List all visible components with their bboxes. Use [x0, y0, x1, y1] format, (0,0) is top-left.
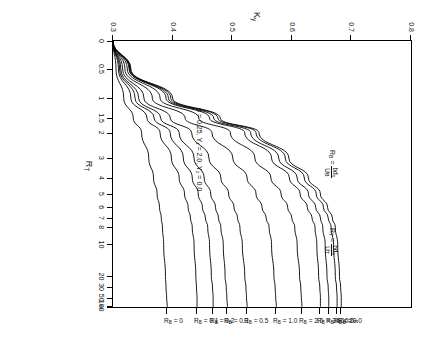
- y-tick-4: [350, 35, 351, 41]
- curve-label-value-10: 0: [179, 317, 183, 324]
- curve-layer: [113, 41, 411, 307]
- y-tick-3: [291, 35, 292, 41]
- x-axis-title: RT: [83, 161, 94, 171]
- x-tick-11: [107, 244, 113, 245]
- curve-label-value-6: 0.5: [259, 317, 268, 324]
- curve-asymptote-tick-4: [301, 307, 302, 314]
- x-tick-8: [107, 207, 113, 208]
- curve-label-symbol-5: RB: [273, 317, 281, 324]
- x-tick-5: [107, 158, 113, 159]
- curve-label-eq-9: =: [204, 317, 208, 324]
- curve-asymptote-tick-5: [275, 307, 276, 314]
- curve-asymptote-tick-7: [226, 307, 227, 314]
- x-tick-4: [107, 133, 113, 134]
- curve-asymptote-tick-8: [212, 307, 213, 314]
- x-tick-label-9: 7: [97, 216, 105, 220]
- rt-symbol: RT: [329, 228, 336, 236]
- x-tick-label-3: 1.5: [97, 113, 105, 123]
- x-tick-label-5: 3: [97, 156, 105, 160]
- x-tick-label-7: 5: [97, 192, 105, 196]
- curve-label-value-2: 10.0: [341, 317, 354, 324]
- x-tick-13: [107, 287, 113, 288]
- curve-label-value-3: 3.0: [333, 317, 342, 324]
- y-tick-label-1: 0.4: [169, 10, 177, 32]
- curve-label-eq-5: =: [283, 317, 287, 324]
- curve-asymptote-tick-0: [340, 307, 341, 314]
- curve-0: [113, 41, 341, 307]
- y-axis-title-sub: y: [251, 18, 258, 21]
- curve-label-symbol-10: RB: [164, 317, 172, 324]
- curve-label-4: RB = 2.0: [299, 317, 323, 326]
- curve-label-eq-10: =: [174, 317, 178, 324]
- rb-denominator: Uʙ: [324, 166, 331, 178]
- rt-denominator: Uᴛ: [324, 244, 331, 256]
- y-tick-label-0: 0.3: [109, 10, 117, 32]
- x-tick-label-13: 30: [97, 283, 105, 291]
- annotation-rb-definition: RB = bd₀ Uʙ: [324, 150, 339, 178]
- curve-9: [113, 41, 197, 307]
- curve-asymptote-tick-6: [246, 307, 247, 314]
- curve-label-symbol-4: RB: [299, 317, 307, 324]
- rb-symbol: RB: [329, 150, 336, 158]
- rb-fraction: bd₀ Uʙ: [324, 166, 339, 178]
- y-tick-1: [172, 35, 173, 41]
- x-axis-title-sub: T: [83, 167, 90, 171]
- x-tick-6: [107, 178, 113, 179]
- x-tick-label-6: 4: [97, 176, 105, 180]
- x-tick-1: [107, 69, 113, 70]
- y-axis-title: Ky: [251, 12, 262, 21]
- y-tick-label-5: 0.8: [407, 10, 415, 32]
- x-tick-label-4: 2: [97, 131, 105, 135]
- curve-label-symbol-9: RB: [194, 317, 202, 324]
- x-tick-2: [107, 98, 113, 99]
- y-tick-2: [231, 35, 232, 41]
- x-tick-7: [107, 194, 113, 195]
- x-tick-label-10: 8: [97, 225, 105, 229]
- chart-figure: 00.511.5234567810203050100∞ 0.30.40.50.6…: [0, 0, 434, 352]
- x-tick-9: [107, 218, 113, 219]
- curve-asymptote-tick-3: [319, 307, 320, 314]
- y-tick-5: [410, 35, 411, 41]
- curve-label-value-4: 2.0: [314, 317, 323, 324]
- x-tick-12: [107, 276, 113, 277]
- curve-label-eq-4: =: [309, 317, 313, 324]
- x-tick-14: [107, 298, 113, 299]
- rt-equals: =: [329, 238, 336, 242]
- rotated-figure-canvas: 00.511.5234567810203050100∞ 0.30.40.50.6…: [0, 0, 434, 352]
- curve-asymptote-tick-1: [336, 307, 337, 314]
- curve-label-10: RB = 0: [164, 317, 183, 326]
- y-tick-0: [112, 35, 113, 41]
- y-tick-label-2: 0.5: [228, 10, 236, 32]
- x-tick-label-16: ∞: [97, 305, 105, 310]
- x-tick-label-0: 0: [97, 39, 105, 43]
- x-tick-16: [107, 307, 113, 308]
- curve-label-9: RB = 0.1: [194, 317, 218, 326]
- curve-label-value-5: 1.0: [289, 317, 298, 324]
- x-tick-label-2: 1: [97, 96, 105, 100]
- curve-label-eq-7: =: [234, 317, 238, 324]
- curve-label-value-8: 0.2: [225, 317, 234, 324]
- annotation-rt-definition: RT = bd₀ Uᴛ: [324, 228, 339, 256]
- rb-numerator: bd₀: [331, 166, 339, 178]
- plot-frame: [112, 40, 412, 308]
- curve-label-eq-3: =: [327, 317, 331, 324]
- x-tick-label-1: 0.5: [97, 64, 105, 74]
- curve-asymptote-tick-9: [196, 307, 197, 314]
- y-tick-label-3: 0.6: [288, 10, 296, 32]
- x-tick-label-8: 6: [97, 205, 105, 209]
- annotation-parameters: β = 0.25, Y₁ = 2.0, Y₂ = 0.0: [196, 108, 203, 191]
- x-tick-10: [107, 227, 113, 228]
- x-tick-label-11: 10: [97, 241, 105, 249]
- rt-numerator: bd₀: [331, 244, 339, 256]
- curve-label-value-7: 0.3: [240, 317, 249, 324]
- rt-fraction: bd₀ Uᴛ: [324, 244, 339, 256]
- x-tick-label-12: 20: [97, 273, 105, 281]
- curve-asymptote-tick-2: [328, 307, 329, 314]
- x-tick-0: [107, 41, 113, 42]
- curve-label-5: RB = 1.0: [273, 317, 297, 326]
- curve-label-eq-6: =: [254, 317, 258, 324]
- x-tick-3: [107, 118, 113, 119]
- y-tick-label-4: 0.7: [347, 10, 355, 32]
- curve-asymptote-tick-10: [166, 307, 167, 314]
- rb-equals: =: [329, 160, 336, 164]
